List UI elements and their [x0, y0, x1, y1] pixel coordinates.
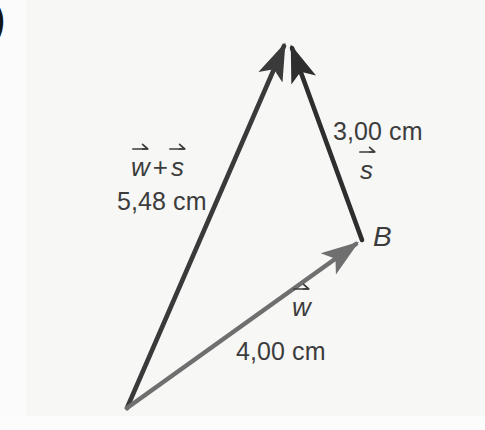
s-vector-symbol-group: s	[360, 155, 373, 185]
w-symbol-text: w	[292, 292, 311, 322]
label-s-magnitude: 3,00 cm	[333, 118, 423, 145]
label-w-magnitude: 4,00 cm	[236, 338, 326, 365]
vector-arrow-accent-icon	[170, 141, 187, 152]
sum-first-symbol-text: w	[131, 152, 150, 182]
vector-arrow-accent-icon	[359, 144, 376, 155]
label-sum-magnitude: 5,48 cm	[117, 188, 207, 215]
vector-arrow-accent-icon	[294, 281, 311, 292]
vector-arrow-accent-icon	[133, 141, 150, 152]
label-w-vector-symbol: w	[292, 292, 311, 322]
s-vector-symbol-group: s	[171, 152, 184, 182]
w-vector-symbol-group: w	[131, 152, 150, 182]
label-sum-vector-symbol: w + s	[131, 152, 184, 182]
s-symbol-text: s	[360, 155, 373, 185]
label-point-b: B	[373, 222, 392, 252]
vector-diagram-figure: ) w + s	[0, 0, 485, 430]
sum-operator-text: +	[150, 152, 171, 182]
label-s-vector-symbol: s	[360, 155, 373, 185]
vector-arrows-canvas	[0, 0, 485, 430]
w-vector-symbol-group: w	[292, 292, 311, 322]
sum-second-symbol-text: s	[171, 152, 184, 182]
